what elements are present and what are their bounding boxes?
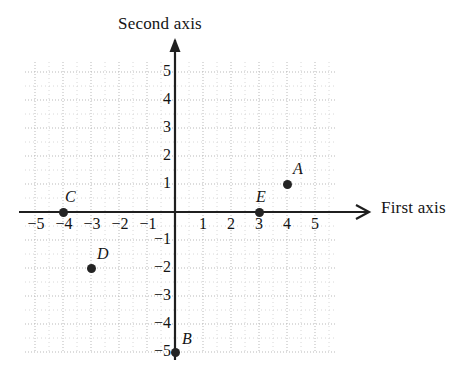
data-point-label-e: E (256, 188, 266, 206)
data-point-b[interactable] (171, 348, 180, 357)
data-point-label-a: A (293, 160, 303, 178)
x-tick-label-1: 1 (188, 215, 218, 233)
y-axis-title: Second axis (118, 14, 202, 34)
x-axis-title: First axis (381, 198, 446, 218)
y-tick-label-neg4: −4 (145, 314, 171, 332)
y-tick-label-2: 2 (145, 146, 171, 164)
data-point-label-d: D (97, 245, 109, 263)
y-tick-label-3: 3 (145, 118, 171, 136)
y-tick-label-4: 4 (145, 90, 171, 108)
data-point-label-b: B (182, 330, 192, 348)
data-point-c[interactable] (59, 208, 68, 217)
x-tick-label-4: 4 (272, 215, 302, 233)
data-point-e[interactable] (255, 208, 264, 217)
coordinate-plane-figure: Second axis First axis −5−4−3−2−112345 −… (0, 0, 464, 371)
x-tick-label-neg3: −3 (77, 215, 107, 233)
y-tick-label-neg2: −2 (145, 258, 171, 276)
x-tick-label-neg5: −5 (21, 215, 51, 233)
y-tick-label-neg3: −3 (145, 286, 171, 304)
x-tick-label-2: 2 (216, 215, 246, 233)
y-tick-label-neg1: −1 (145, 230, 171, 248)
axes-layer (0, 0, 464, 371)
data-point-d[interactable] (87, 264, 96, 273)
x-tick-label-5: 5 (300, 215, 330, 233)
y-tick-label-5: 5 (145, 62, 171, 80)
x-tick-label-3: 3 (244, 215, 274, 233)
data-point-label-c: C (65, 188, 76, 206)
x-tick-label-neg2: −2 (105, 215, 135, 233)
y-tick-label-1: 1 (145, 174, 171, 192)
y-tick-label-neg5: −5 (145, 342, 171, 360)
x-tick-label-neg4: −4 (49, 215, 79, 233)
data-point-a[interactable] (283, 180, 292, 189)
